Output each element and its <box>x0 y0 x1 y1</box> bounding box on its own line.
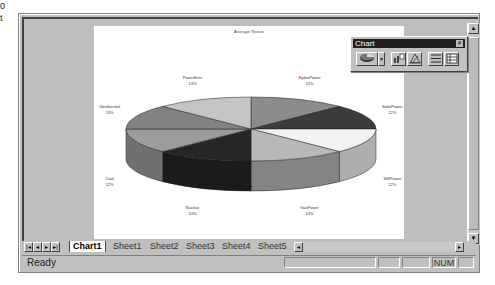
scroll-left-button[interactable]: ◂ <box>294 242 303 252</box>
tab-sheet2[interactable]: Sheet2 <box>147 241 182 252</box>
chart-toolbar-title[interactable]: Chart ✕ <box>353 39 465 48</box>
num-lock-indicator: NUM <box>432 257 456 268</box>
by-row-icon <box>430 53 442 64</box>
data-label-percent[interactable]: 12% <box>388 182 396 187</box>
scroll-thumb[interactable] <box>468 37 479 230</box>
data-label-category[interactable]: Coal <box>106 176 114 181</box>
data-table-button[interactable] <box>407 52 422 66</box>
chart-toolbar[interactable]: Chart ✕ ▾ <box>350 36 468 72</box>
data-label-percent[interactable]: 13% <box>188 211 196 216</box>
tab-sheet3[interactable]: Sheet3 <box>183 241 218 252</box>
legend-button[interactable] <box>391 52 406 66</box>
status-panel <box>284 257 376 268</box>
scroll-right-button[interactable]: ▸ <box>455 242 464 252</box>
data-label-percent[interactable]: 13% <box>106 110 114 115</box>
legend-icon <box>393 53 405 64</box>
data-label-category[interactable]: Geothermal <box>99 104 120 109</box>
tab-chart1[interactable]: Chart1 <box>69 241 106 252</box>
data-label-percent[interactable]: 13% <box>306 211 314 216</box>
status-panel <box>402 257 430 268</box>
toolbar-title-label: Chart <box>355 39 375 48</box>
chart-sheet-area: Average Ratios HydroPower12%SolarPower12… <box>22 17 478 241</box>
chart-type-dropdown[interactable]: ▾ <box>378 52 385 66</box>
status-text: Ready <box>27 257 56 269</box>
data-label-percent[interactable]: 12% <box>388 110 396 115</box>
edge-text-line: t <box>0 12 5 24</box>
by-column-icon <box>446 53 458 64</box>
by-column-button[interactable] <box>444 52 459 66</box>
last-sheet-button[interactable]: ▸| <box>51 242 60 252</box>
tab-sheet5[interactable]: Sheet5 <box>255 241 290 252</box>
pie-chart-icon <box>359 53 375 63</box>
data-label-category[interactable]: Nuclear <box>186 205 200 210</box>
tab-sheet4[interactable]: Sheet4 <box>219 241 254 252</box>
status-bar: Ready NUM <box>22 255 476 270</box>
tab-sheet1[interactable]: Sheet1 <box>110 241 145 252</box>
scroll-up-button[interactable]: ▲ <box>468 23 479 34</box>
data-label-percent[interactable]: 12% <box>306 81 314 86</box>
chart-type-button[interactable] <box>356 52 378 66</box>
data-label-category[interactable]: PowerEver <box>183 75 203 80</box>
data-label-percent[interactable]: 13% <box>188 81 196 86</box>
edge-text: 0 t <box>0 0 5 24</box>
excel-window: Average Ratios HydroPower12%SolarPower12… <box>18 13 480 273</box>
horizontal-scrollbar[interactable]: ◂ ▸ <box>294 242 464 252</box>
sheet-tab-bar: |◂ ◂ ▸ ▸| Chart1 Sheet1 Sheet2 Sheet3 Sh… <box>22 241 476 253</box>
data-label-category[interactable]: GasPower <box>300 205 319 210</box>
next-sheet-button[interactable]: ▸ <box>42 242 51 252</box>
edge-text-line: 0 <box>0 0 5 12</box>
data-label-category[interactable]: HydroPower <box>299 75 322 80</box>
data-label-percent[interactable]: 12% <box>106 182 114 187</box>
first-sheet-button[interactable]: |◂ <box>24 242 33 252</box>
data-label-category[interactable]: SolarPower <box>382 104 403 109</box>
data-table-icon <box>409 53 421 64</box>
vertical-scrollbar[interactable]: ▲ ▼ <box>467 23 480 245</box>
chevron-down-icon: ▾ <box>380 56 383 62</box>
prev-sheet-button[interactable]: ◂ <box>33 242 42 252</box>
data-label-category[interactable]: WillPower <box>383 176 401 181</box>
status-panel <box>458 257 474 268</box>
by-row-button[interactable] <box>428 52 443 66</box>
close-icon[interactable]: ✕ <box>456 40 463 47</box>
status-panel <box>378 257 400 268</box>
